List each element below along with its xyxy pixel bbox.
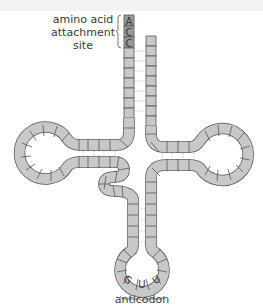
anticodon-label: anticodon	[115, 293, 170, 305]
attachment-bracket	[116, 15, 121, 48]
attachment-label-line1: amino acid	[53, 13, 114, 26]
acceptor-base-1: A	[126, 16, 133, 27]
attachment-label-line3: site	[73, 39, 93, 52]
acceptor-base-2: C	[126, 27, 133, 38]
anticodon-base-2: U	[138, 279, 145, 290]
variable-region	[98, 156, 138, 246]
trna-diagram: .nt { fill: #c8c8c8; stroke: #555; strok…	[0, 0, 263, 305]
attachment-label-line2: attachment	[51, 26, 116, 39]
t-arm	[146, 125, 250, 246]
acceptor-base-3: C	[126, 38, 133, 49]
anticodon-stem-pairs	[138, 209, 146, 242]
